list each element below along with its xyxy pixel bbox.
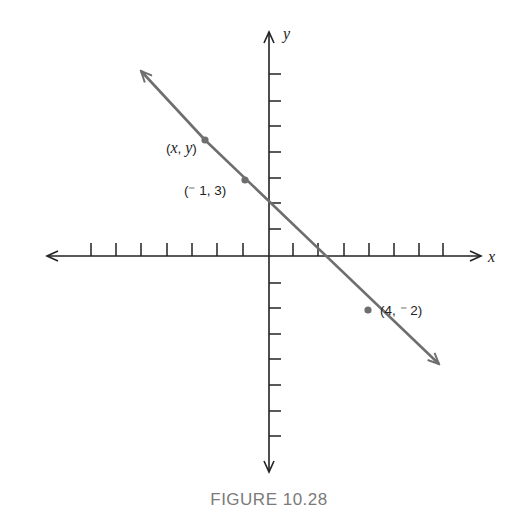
figure-caption: FIGURE 10.28 xyxy=(0,490,518,510)
label-point-4-neg2: (4, ⁻ 2) xyxy=(380,303,422,318)
y-axis-label: y xyxy=(281,25,291,43)
point-4-neg2 xyxy=(364,306,371,313)
point-xy xyxy=(201,136,208,143)
x-axis-label: x xyxy=(487,248,495,265)
point-neg1-3 xyxy=(241,176,248,183)
label-point-xy: (x, y) xyxy=(166,139,197,157)
x-axis: x xyxy=(47,243,495,265)
x-axis-ticks xyxy=(91,243,443,256)
label-point-neg1-3: (⁻ 1, 3) xyxy=(184,183,226,198)
y-axis-ticks xyxy=(269,74,281,436)
coordinate-plane: x y (x, y) (⁻ 1, xyxy=(0,0,518,522)
graph-line xyxy=(141,71,439,364)
y-axis: y xyxy=(269,25,291,472)
